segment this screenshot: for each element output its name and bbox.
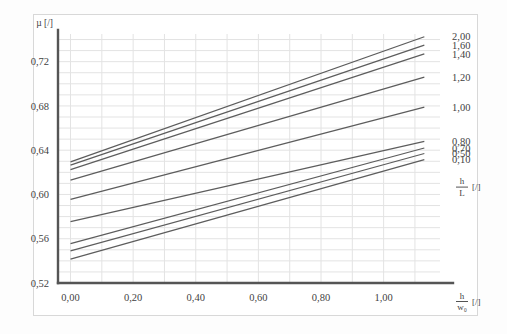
data-line-series-1: [71, 45, 425, 165]
y-tick-label: 0,68: [31, 101, 49, 112]
series-label-120: 1,20: [452, 72, 470, 83]
x-tick-label: 0,00: [61, 292, 79, 303]
x-tick-label: 1,00: [374, 292, 392, 303]
data-line-series-3: [71, 77, 425, 180]
legend-title: hL[/]: [456, 176, 481, 198]
chart-figure: 0,520,560,600,640,680,72 0,000,200,400,6…: [0, 0, 507, 334]
svg-text:L: L: [459, 188, 465, 198]
svg-text:[/]: [/]: [472, 297, 481, 307]
grid-layer: [58, 34, 440, 283]
svg-text:[/]: [/]: [472, 182, 481, 192]
x-tick-label: 0,80: [312, 292, 330, 303]
y-tick-label: 0,72: [31, 56, 49, 67]
series-labels: 2,001,601,401,201,000,800,700,500,10: [452, 31, 470, 165]
data-line-series-0: [71, 37, 425, 162]
data-line-series-7: [71, 154, 425, 251]
series-label-140: 1,40: [452, 49, 470, 60]
y-tick-label: 0,60: [31, 189, 49, 200]
data-line-series-6: [71, 148, 425, 244]
x-axis-title: hw₀[/]: [456, 291, 481, 313]
x-tick-label: 0,40: [187, 292, 205, 303]
x-tick-label: 0,60: [249, 292, 267, 303]
series-label-010: 0,10: [452, 154, 470, 165]
data-line-series-2: [71, 54, 425, 170]
x-tick-label: 0,20: [124, 292, 142, 303]
plot-area: 0,520,560,600,640,680,72 0,000,200,400,6…: [0, 0, 507, 334]
y-tick-labels: 0,520,560,600,640,680,72: [31, 56, 50, 288]
svg-text:h: h: [460, 291, 465, 301]
x-tick-labels: 0,000,200,400,600,801,00: [61, 292, 392, 303]
y-tick-label: 0,64: [31, 145, 50, 156]
y-tick-label: 0,56: [31, 233, 49, 244]
svg-text:w₀: w₀: [457, 302, 467, 312]
y-tick-label: 0,52: [31, 278, 49, 289]
svg-text:h: h: [460, 176, 465, 186]
data-lines-layer: [71, 37, 425, 259]
series-label-100: 1,00: [452, 102, 470, 113]
chart-svg: 0,520,560,600,640,680,72 0,000,200,400,6…: [0, 0, 507, 334]
y-axis-title: µ [/]: [36, 18, 53, 28]
